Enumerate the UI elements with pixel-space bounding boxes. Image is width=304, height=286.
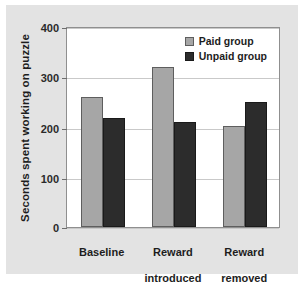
bar-paid-baseline[interactable] <box>81 97 103 227</box>
figure-container: Seconds spent working on puzzle 400 300 … <box>6 5 298 274</box>
y-tick-label-200: 200 <box>41 123 59 135</box>
bar-unpaid-baseline[interactable] <box>103 118 125 227</box>
x-axis-label-reward-introduced: Reward introduced <box>137 233 208 286</box>
y-tick-label-100: 100 <box>41 173 59 185</box>
x-axis-label-reward-removed-line2: removed <box>209 272 280 285</box>
bar-group-reward-introduced <box>138 28 209 227</box>
x-axis-label-reward-removed: Reward removed <box>209 233 280 286</box>
x-axis-label-reward-removed-line1: Reward <box>209 246 280 259</box>
bar-group-baseline <box>67 28 138 227</box>
bar-unpaid-reward-introduced[interactable] <box>174 122 196 227</box>
y-tick-label-300: 300 <box>41 72 59 84</box>
bar-paid-reward-introduced[interactable] <box>152 67 174 227</box>
y-axis-title: Seconds spent working on puzzle <box>17 27 33 228</box>
y-tick-mark-0 <box>62 228 67 229</box>
x-axis-label-baseline: Baseline <box>66 233 137 272</box>
y-tick-label-400: 400 <box>41 22 59 34</box>
bar-unpaid-reward-removed[interactable] <box>245 102 267 228</box>
bar-paid-reward-removed[interactable] <box>223 126 245 227</box>
plot-area: 400 300 200 100 0 Paid group Unpaid g <box>66 27 280 228</box>
x-axis-label-baseline-line1: Baseline <box>66 246 137 259</box>
y-tick-label-0: 0 <box>53 222 59 234</box>
gridline-0: 0 <box>67 228 279 229</box>
x-axis-label-reward-introduced-line2: introduced <box>137 272 208 285</box>
y-axis-title-label: Seconds spent working on puzzle <box>19 34 31 222</box>
bar-group-reward-removed <box>210 28 281 227</box>
x-axis-label-reward-introduced-line1: Reward <box>137 246 208 259</box>
